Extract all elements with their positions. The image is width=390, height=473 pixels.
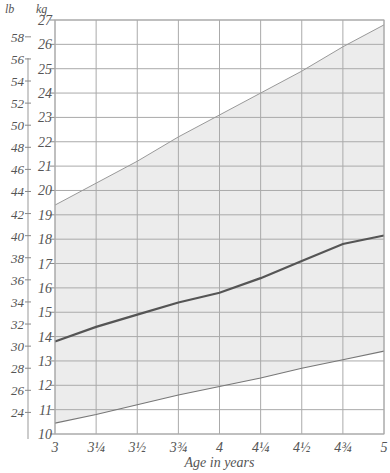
lb-tick-label: 42 — [11, 207, 25, 222]
x-tick-label: 3 — [51, 440, 59, 455]
growth-chart: 10111213141516171819202122232425262733¼3… — [0, 0, 390, 473]
kg-tick-label: 24 — [38, 86, 52, 101]
kg-tick-label: 23 — [38, 110, 52, 125]
lb-tick-label: 34 — [10, 295, 25, 310]
x-tick-label: 3½ — [128, 440, 147, 455]
lb-tick-label: 24 — [11, 405, 25, 420]
lb-tick-label: 48 — [11, 140, 25, 155]
lb-tick-label: 36 — [10, 273, 25, 288]
lb-tick-label: 54 — [11, 74, 25, 89]
chart-svg: 10111213141516171819202122232425262733¼3… — [0, 0, 390, 473]
kg-tick-label: 15 — [38, 305, 52, 320]
x-tick-label: 5 — [381, 440, 388, 455]
lb-tick-label: 30 — [10, 339, 25, 354]
lb-tick-label: 28 — [11, 361, 25, 376]
kg-tick-label: 20 — [38, 183, 52, 198]
lb-tick-label: 58 — [11, 30, 25, 45]
x-tick-label: 4½ — [293, 440, 311, 455]
kg-tick-label: 14 — [38, 330, 52, 345]
kg-tick-label: 10 — [38, 427, 52, 442]
lb-tick-label: 38 — [10, 251, 25, 266]
lb-tick-label: 44 — [11, 184, 25, 199]
x-tick-label: 3¾ — [169, 440, 188, 455]
kg-tick-label: 12 — [38, 378, 52, 393]
x-tick-label: 3¼ — [86, 440, 105, 455]
lb-tick-label: 40 — [11, 229, 25, 244]
lb-tick-label: 52 — [11, 96, 25, 111]
lb-tick-label: 50 — [11, 118, 25, 133]
lb-axis-label: lb — [5, 2, 14, 16]
kg-tick-label: 16 — [38, 281, 52, 296]
x-tick-label: 4 — [216, 440, 223, 455]
x-axis-title: Age in years — [184, 455, 256, 470]
kg-tick-label: 11 — [39, 403, 52, 418]
kg-tick-label: 17 — [38, 257, 53, 272]
lb-tick-label: 46 — [11, 162, 25, 177]
kg-tick-label: 26 — [38, 37, 52, 52]
lb-tick-label: 56 — [11, 52, 25, 67]
kg-tick-label: 21 — [38, 159, 52, 174]
kg-tick-label: 13 — [38, 354, 52, 369]
lb-tick-label: 26 — [11, 383, 25, 398]
lb-tick-label: 32 — [10, 317, 25, 332]
kg-tick-label: 18 — [38, 232, 52, 247]
x-tick-label: 4¾ — [334, 440, 352, 455]
kg-tick-label: 19 — [38, 208, 52, 223]
x-tick-label: 4¼ — [252, 440, 270, 455]
kg-axis-label: kg — [36, 2, 47, 16]
kg-tick-label: 25 — [38, 62, 52, 77]
kg-tick-label: 22 — [38, 135, 52, 150]
